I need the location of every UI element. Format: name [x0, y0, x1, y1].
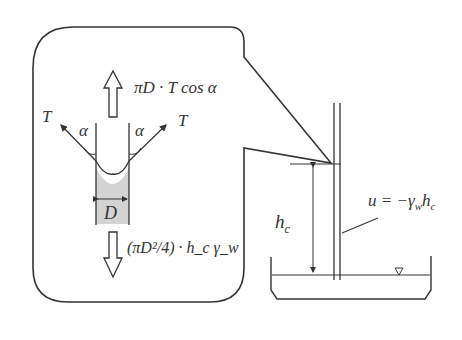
- upward-force-label: πD · T cos α: [134, 79, 217, 96]
- pressure-label: u = −γwhc: [368, 192, 435, 212]
- pressure-label-main: u = −γ: [368, 191, 415, 210]
- diameter-label: D: [104, 204, 117, 222]
- tension-right-label: T: [178, 112, 187, 129]
- tension-left-label: T: [42, 108, 51, 125]
- height-label-main: h: [275, 211, 285, 232]
- pressure-label-sub-c: c: [431, 200, 436, 212]
- angle-left-label: α: [79, 122, 88, 139]
- pressure-label-h: h: [422, 191, 431, 210]
- height-label-sub: c: [285, 222, 290, 236]
- downward-force-label: (πD²/4) · h_c γ_w: [127, 240, 239, 256]
- water-level-symbol-icon: [395, 268, 403, 275]
- callout-outline: [33, 27, 331, 302]
- capillary-diagram: [0, 0, 462, 340]
- water-container: [271, 256, 431, 299]
- pressure-leader-line: [342, 218, 378, 233]
- pressure-label-sub-w: w: [415, 200, 422, 212]
- height-label: hc: [275, 212, 290, 235]
- angle-right-label: α: [135, 122, 144, 139]
